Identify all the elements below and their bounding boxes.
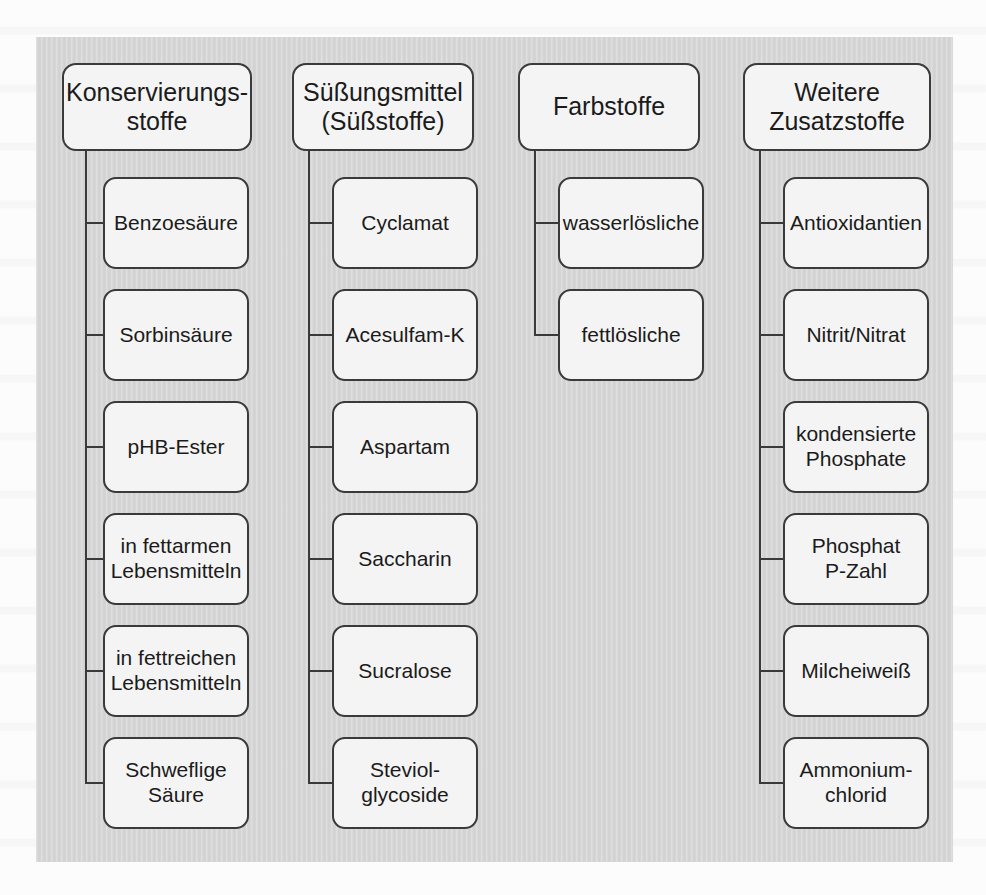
connector-trunk-weitere-zusatzstoffe — [759, 151, 761, 783]
connector-stub-farbstoffe-1 — [534, 334, 558, 336]
connector-stub-suessungsmittel-2 — [308, 446, 332, 448]
item-node-weitere-zusatzstoffe-2: kondensierte Phosphate — [783, 401, 929, 493]
item-node-suessungsmittel-5: Steviol- glycoside — [332, 737, 478, 829]
item-node-weitere-zusatzstoffe-3: Phosphat P-Zahl — [783, 513, 929, 605]
item-node-label: fettlösliche — [575, 323, 686, 348]
category-node-suessungsmittel: Süßungsmittel (Süßstoffe) — [292, 63, 474, 151]
item-node-label: kondensierte Phosphate — [790, 422, 922, 472]
connector-trunk-suessungsmittel — [308, 151, 310, 783]
diagram-panel: Konservierungs- stoffeBenzoesäureSorbins… — [36, 37, 953, 862]
item-node-label: Benzoesäure — [108, 211, 244, 236]
item-node-konservierungsstoffe-5: Schweflige Säure — [103, 737, 249, 829]
item-node-label: Phosphat P-Zahl — [806, 534, 907, 584]
item-node-label: Nitrit/Nitrat — [800, 323, 911, 348]
category-node-label: Weitere Zusatzstoffe — [763, 78, 911, 137]
connector-stub-suessungsmittel-4 — [308, 670, 332, 672]
connector-stub-suessungsmittel-5 — [308, 782, 332, 784]
connector-trunk-konservierungsstoffe — [85, 151, 87, 783]
connector-stub-konservierungsstoffe-1 — [85, 334, 103, 336]
connector-stub-weitere-zusatzstoffe-4 — [759, 670, 783, 672]
item-node-label: in fettreichen Lebensmitteln — [105, 646, 248, 696]
connector-stub-suessungsmittel-3 — [308, 558, 332, 560]
connector-stub-suessungsmittel-1 — [308, 334, 332, 336]
item-node-label: wasserlösliche — [557, 211, 706, 236]
item-node-suessungsmittel-4: Sucralose — [332, 625, 478, 717]
connector-stub-weitere-zusatzstoffe-1 — [759, 334, 783, 336]
category-node-label: Farbstoffe — [547, 92, 671, 122]
connector-stub-suessungsmittel-0 — [308, 222, 332, 224]
item-node-label: Aspartam — [354, 435, 456, 460]
item-node-suessungsmittel-1: Acesulfam-K — [332, 289, 478, 381]
category-node-weitere-zusatzstoffe: Weitere Zusatzstoffe — [743, 63, 931, 151]
item-node-konservierungsstoffe-3: in fettarmen Lebensmitteln — [103, 513, 249, 605]
connector-stub-weitere-zusatzstoffe-2 — [759, 446, 783, 448]
item-node-label: Ammonium- chlorid — [793, 758, 918, 808]
item-node-label: pHB-Ester — [122, 435, 231, 460]
connector-stub-konservierungsstoffe-4 — [85, 670, 103, 672]
item-node-konservierungsstoffe-1: Sorbinsäure — [103, 289, 249, 381]
connector-stub-konservierungsstoffe-2 — [85, 446, 103, 448]
category-node-farbstoffe: Farbstoffe — [518, 63, 700, 151]
item-node-label: Steviol- glycoside — [355, 758, 455, 808]
connector-stub-weitere-zusatzstoffe-5 — [759, 782, 783, 784]
category-node-label: Konservierungs- stoffe — [60, 78, 254, 137]
item-node-label: Sorbinsäure — [113, 323, 238, 348]
item-node-label: Antioxidantien — [784, 211, 928, 236]
scanned-page: Konservierungs- stoffeBenzoesäureSorbins… — [0, 0, 986, 895]
item-node-label: Acesulfam-K — [339, 323, 470, 348]
connector-stub-konservierungsstoffe-0 — [85, 222, 103, 224]
item-node-label: Milcheiweiß — [795, 659, 917, 684]
item-node-suessungsmittel-2: Aspartam — [332, 401, 478, 493]
item-node-label: in fettarmen Lebensmitteln — [105, 534, 248, 584]
category-node-konservierungsstoffe: Konservierungs- stoffe — [62, 63, 252, 151]
item-node-weitere-zusatzstoffe-4: Milcheiweiß — [783, 625, 929, 717]
item-node-label: Schweflige Säure — [119, 758, 233, 808]
connector-stub-konservierungsstoffe-5 — [85, 782, 103, 784]
item-node-weitere-zusatzstoffe-1: Nitrit/Nitrat — [783, 289, 929, 381]
connector-stub-farbstoffe-0 — [534, 222, 558, 224]
item-node-konservierungsstoffe-2: pHB-Ester — [103, 401, 249, 493]
connector-stub-konservierungsstoffe-3 — [85, 558, 103, 560]
item-node-suessungsmittel-3: Saccharin — [332, 513, 478, 605]
connector-stub-weitere-zusatzstoffe-3 — [759, 558, 783, 560]
item-node-konservierungsstoffe-4: in fettreichen Lebensmitteln — [103, 625, 249, 717]
item-node-konservierungsstoffe-0: Benzoesäure — [103, 177, 249, 269]
item-node-weitere-zusatzstoffe-5: Ammonium- chlorid — [783, 737, 929, 829]
item-node-farbstoffe-1: fettlösliche — [558, 289, 704, 381]
connector-stub-weitere-zusatzstoffe-0 — [759, 222, 783, 224]
item-node-label: Saccharin — [352, 547, 457, 572]
item-node-label: Cyclamat — [355, 211, 455, 236]
item-node-suessungsmittel-0: Cyclamat — [332, 177, 478, 269]
item-node-label: Sucralose — [352, 659, 457, 684]
item-node-farbstoffe-0: wasserlösliche — [558, 177, 704, 269]
category-node-label: Süßungsmittel (Süßstoffe) — [297, 78, 469, 137]
connector-trunk-farbstoffe — [534, 151, 536, 335]
item-node-weitere-zusatzstoffe-0: Antioxidantien — [783, 177, 929, 269]
